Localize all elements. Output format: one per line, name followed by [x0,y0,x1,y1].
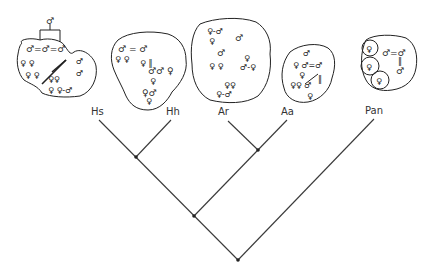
svg-text:♀: ♀ [150,77,156,86]
svg-text:♀ ♀-♂: ♀ ♀-♂ [48,86,72,95]
svg-text:♂=♂: ♂=♂ [382,48,406,58]
svg-text:♂: ♂ [76,69,83,78]
node-ar-aa [256,148,260,152]
svg-text:♀: ♀ [299,71,305,80]
svg-text:♀-♂: ♀-♂ [207,27,223,36]
node-root [236,258,240,262]
branch-hs [99,120,238,260]
svg-text:♂♂ ♀: ♂♂ ♀ [148,66,174,76]
svg-text:‖: ‖ [318,75,322,84]
svg-text:♀ ♀: ♀ ♀ [209,62,223,71]
taxon-label-hh: Hh [166,107,180,117]
svg-text:♀-♂: ♀-♂ [216,90,232,99]
svg-text:♂=♂=♂: ♂=♂=♂ [26,44,65,54]
svg-text:♀: ♀ [366,63,372,72]
svg-text:♀♀ ♂: ♀♀ ♂ [290,81,311,90]
taxon-label-hs: Hs [91,107,104,117]
svg-text:♀: ♀ [209,37,215,46]
node-homo-aust [192,214,196,218]
social-group-hh: ♂ = ♂ ♀ ♀ ♀ ‖ ♂♂ ♀ ♀ ♀♂ ♀ [111,32,186,110]
branch-ar [228,121,258,150]
svg-text:♂: ♂ [76,57,83,66]
svg-text:♀: ♀ [244,54,250,63]
svg-text:♂ = ♂: ♂ = ♂ [118,44,147,54]
taxon-label-aa: Aa [281,107,294,117]
branch-aa-stem [194,120,287,216]
social-group-ar: ♀-♂ ♀ ♂ ♂ ♀ ♀ ♀ ♂-♀ ♀♀ ♀-♂ [191,18,270,102]
svg-text:♀ ♀: ♀ ♀ [20,59,34,68]
svg-text:♀ ♀: ♀ ♀ [25,71,39,80]
cladogram-diagram: ♂ ♂=♂=♂ ♀ ♀ ♀ ♀ ♀♀ ♀ ♀-♂ ♂ ♂ ♂ = ♂ ♀ ♀ ♀… [0,0,428,272]
branch-pan [238,119,374,260]
svg-text:♂: ♂ [235,33,243,43]
svg-text:♂: ♂ [396,66,404,76]
node-hs-hh [134,155,138,159]
taxon-label-pan: Pan [365,106,383,116]
social-group-pan: ♀ ♀ ♀ ♂=♂ ‖ ♂ [361,35,417,90]
svg-text:♀♀: ♀♀ [224,81,236,90]
svg-text:♀: ♀ [366,45,372,54]
social-group-aa: ♂ ♀ ♂=♂ ♀ ‖ ♀♀ ♂ ♀ [282,45,335,103]
svg-text:♂-♀: ♂-♀ [240,63,256,72]
tree-nodes [134,148,260,262]
svg-text:♀♀: ♀♀ [48,75,60,84]
branch-hh [136,120,171,157]
svg-text:♀ ♂=♂: ♀ ♂=♂ [293,61,322,70]
svg-text:♀: ♀ [146,97,152,106]
svg-text:♂: ♂ [46,16,54,26]
svg-text:‖: ‖ [398,57,402,66]
svg-text:♀: ♀ [307,92,313,101]
svg-text:♀: ♀ [376,77,382,86]
svg-text:♂: ♂ [303,49,310,58]
svg-text:♀ ♀: ♀ ♀ [115,55,129,64]
taxon-label-ar: Ar [218,107,229,117]
svg-text:♂: ♂ [217,48,225,58]
tree-branches [99,119,374,260]
social-group-hs: ♂ ♂=♂=♂ ♀ ♀ ♀ ♀ ♀♀ ♀ ♀-♂ ♂ ♂ [17,16,96,97]
